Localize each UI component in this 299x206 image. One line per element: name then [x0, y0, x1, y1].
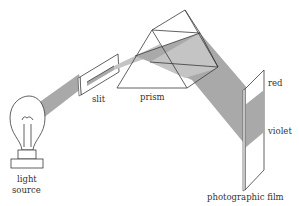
slit: [78, 54, 119, 96]
light-bulb-icon: [10, 96, 45, 168]
spectroscope-diagram: light source slit prism red violet photo…: [0, 0, 299, 206]
red-label: red: [268, 78, 283, 88]
photographic-film: [243, 70, 264, 191]
light-source-label: light: [17, 174, 37, 184]
photographic-film-label: photographic film: [207, 192, 284, 202]
slit-label: slit: [92, 94, 106, 104]
light-source-label-2: source: [12, 185, 41, 195]
violet-label: violet: [267, 126, 292, 136]
prism-label: prism: [140, 92, 165, 102]
